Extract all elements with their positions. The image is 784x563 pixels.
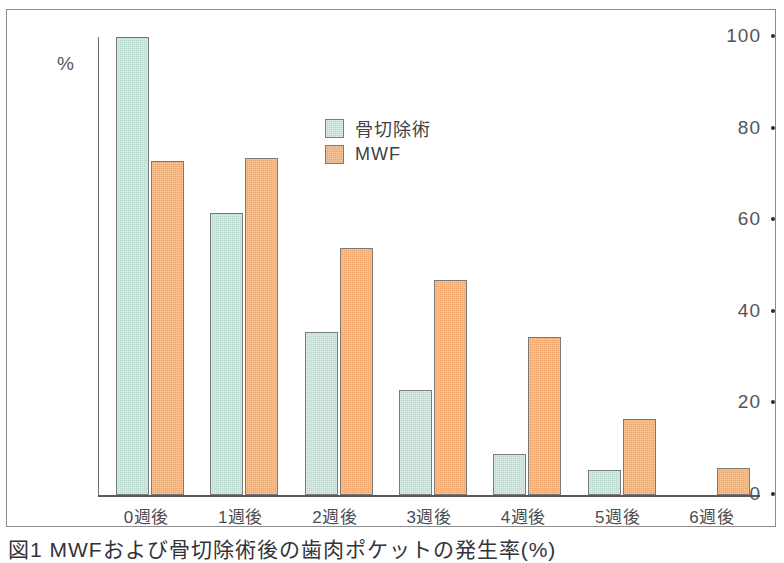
x-axis-label-5: 5週後 xyxy=(570,503,664,528)
chart-legend: 骨切除術MWF xyxy=(325,115,431,167)
x-axis-label-1: 1週後 xyxy=(193,503,287,528)
bar-骨切除術-4週後 xyxy=(493,454,526,495)
x-axis-label-2: 2週後 xyxy=(288,503,382,528)
y-axis-tick-mark xyxy=(771,34,775,38)
bar-MWF-3週後 xyxy=(434,280,467,495)
bar-MWF-4週後 xyxy=(528,337,561,495)
legend-swatch-orange xyxy=(325,145,344,164)
y-axis-tick-mark xyxy=(771,492,775,496)
figure-frame: 020406080100 % 0週後1週後2週後3週後4週後5週後6週後 骨切除… xyxy=(6,9,776,527)
legend-item-0: 骨切除術 xyxy=(325,115,431,141)
bar-骨切除術-0週後 xyxy=(116,37,149,495)
bar-MWF-2週後 xyxy=(340,248,373,495)
bar-MWF-0週後 xyxy=(151,161,184,495)
y-axis-tick-mark xyxy=(771,126,775,130)
bar-骨切除術-5週後 xyxy=(588,470,621,495)
bar-骨切除術-3週後 xyxy=(399,390,432,495)
bar-MWF-5週後 xyxy=(623,419,656,495)
bar-MWF-6週後 xyxy=(717,468,750,495)
plot-area xyxy=(99,37,759,495)
x-axis-line xyxy=(98,495,760,497)
legend-label: 骨切除術 xyxy=(355,115,431,141)
bar-MWF-1週後 xyxy=(245,158,278,495)
legend-item-1: MWF xyxy=(325,141,431,167)
x-axis-label-3: 3週後 xyxy=(382,503,476,528)
y-axis-tick-mark xyxy=(771,217,775,221)
legend-swatch-green xyxy=(325,119,344,138)
x-axis-label-6: 6週後 xyxy=(665,503,759,528)
y-axis-tick-mark xyxy=(771,400,775,404)
x-axis-label-4: 4週後 xyxy=(476,503,570,528)
y-axis-unit-label: % xyxy=(57,53,74,75)
y-axis-tick-mark xyxy=(771,309,775,313)
legend-label: MWF xyxy=(355,144,401,165)
bar-骨切除術-2週後 xyxy=(305,332,338,495)
bar-骨切除術-1週後 xyxy=(210,213,243,495)
figure-caption: 図1 MWFおよび骨切除術後の歯肉ポケットの発生率(%) xyxy=(8,533,556,563)
x-axis-label-0: 0週後 xyxy=(99,503,193,528)
